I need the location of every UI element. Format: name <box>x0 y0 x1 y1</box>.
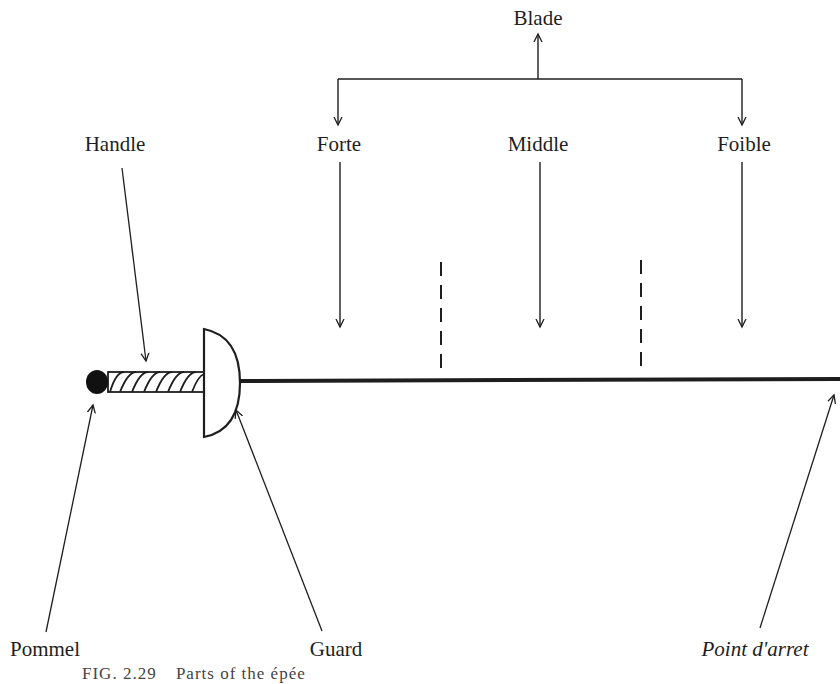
label-forte: Forte <box>317 132 361 157</box>
guard-pointer-arrow <box>236 410 322 631</box>
label-point-darret: Point d'arret <box>702 637 809 662</box>
label-pommel: Pommel <box>10 637 80 662</box>
label-blade: Blade <box>514 6 563 31</box>
label-foible: Foible <box>717 132 771 157</box>
section-arrows <box>340 162 742 327</box>
point-darret-pointer-arrow <box>760 395 834 628</box>
guard <box>204 329 240 437</box>
figure-caption: FIG. 2.29 Parts of the épée <box>82 664 306 684</box>
blade <box>236 379 840 381</box>
blade-bracket <box>338 34 742 125</box>
label-handle: Handle <box>85 132 146 157</box>
label-guard: Guard <box>310 637 362 662</box>
handle-pointer-arrow <box>122 168 146 361</box>
handle <box>108 372 204 392</box>
pommel <box>86 370 108 394</box>
section-dividers <box>441 260 641 374</box>
component-arrows <box>46 168 834 632</box>
pommel-pointer-arrow <box>46 405 93 632</box>
figure-caption-text: Parts of the épée <box>176 664 306 683</box>
label-middle: Middle <box>508 132 569 157</box>
figure-number: FIG. 2.29 <box>82 664 157 683</box>
